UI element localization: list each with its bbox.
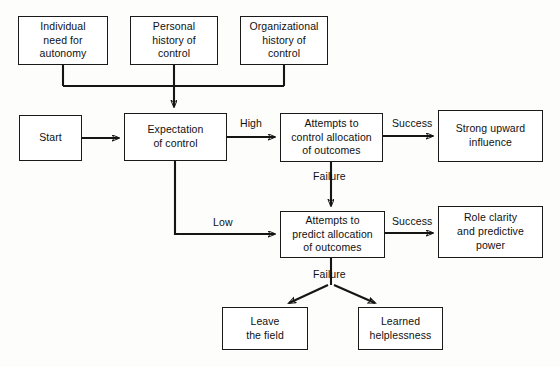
node-start[interactable]: Start [19,115,82,161]
node-attempts-control-allocation[interactable]: Attempts to control allocation of outcom… [280,113,383,162]
node-label: Role clarity and predictive power [452,211,529,253]
node-organizational-history-control[interactable]: Organizational history of control [240,16,328,65]
node-label: Attempts to predict allocation of outcom… [287,214,378,256]
node-label: Strong upward influence [451,122,531,150]
node-strong-upward-influence[interactable]: Strong upward influence [438,110,543,162]
node-personal-history-control[interactable]: Personal history of control [130,16,218,65]
node-label: Expectation of control [143,123,209,151]
node-label: Personal history of control [147,20,201,62]
node-leave-the-field[interactable]: Leave the field [222,307,308,350]
node-label: Organizational history of control [244,20,323,62]
node-learned-helplessness[interactable]: Learned helplessness [358,307,443,350]
node-label: Leave the field [241,315,289,343]
node-expectation-of-control[interactable]: Expectation of control [124,113,227,161]
edge-label-success-lower: Success [392,215,432,227]
edge-label-low: Low [213,216,233,228]
edge-label-high: High [240,117,262,129]
edge-label-failure-upper: Failure [313,170,346,182]
flowchart-canvas: Individual need for autonomy Personal hi… [0,0,560,367]
edge-label-success-upper: Success [392,117,432,129]
node-role-clarity-predictive-power[interactable]: Role clarity and predictive power [438,206,543,258]
wire-failure-to-leave-field [289,285,328,303]
node-label: Individual need for autonomy [35,20,92,62]
node-label: Attempts to control allocation of outcom… [286,117,377,159]
wire-failure-to-helplessness [334,285,375,303]
node-label: Learned helplessness [365,315,437,343]
node-individual-need-autonomy[interactable]: Individual need for autonomy [18,16,108,65]
edge-label-failure-lower: Failure [313,268,346,280]
node-attempts-predict-allocation[interactable]: Attempts to predict allocation of outcom… [280,211,385,258]
node-label: Start [34,131,67,145]
